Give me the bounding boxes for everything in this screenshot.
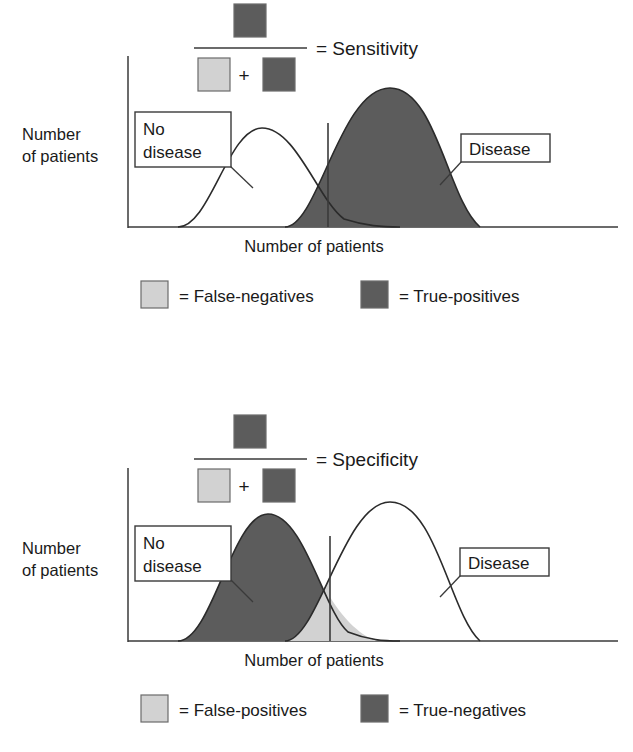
y-axis-label: Number of patients bbox=[22, 125, 98, 165]
legend-specificity: = False-positives = True-negatives bbox=[141, 695, 526, 722]
no-disease-label-line2: disease bbox=[143, 143, 202, 162]
formula-plus-operator: + bbox=[238, 65, 249, 86]
legend-label-false-positives: = False-positives bbox=[179, 701, 307, 720]
panel-specificity: + = Specificity Number of patients No bbox=[0, 376, 633, 752]
no-disease-label-line2: disease bbox=[143, 557, 202, 576]
formula-plus-operator: + bbox=[238, 476, 249, 497]
specificity-figure: + = Specificity Number of patients No bbox=[0, 376, 633, 752]
formula-denominator-dark-square bbox=[263, 58, 295, 91]
formula-numerator-dark-square bbox=[234, 4, 266, 37]
formula-result-label: = Specificity bbox=[316, 449, 418, 470]
no-disease-label-line1: No bbox=[143, 120, 165, 139]
legend-sensitivity: = False-negatives = True-positives bbox=[141, 281, 519, 308]
formula-numerator-dark-square bbox=[234, 415, 266, 448]
formula-denominator-light-square bbox=[198, 58, 230, 91]
legend-label-true-negatives: = True-negatives bbox=[399, 701, 526, 720]
callout-disease: Disease bbox=[440, 134, 550, 185]
legend-swatch-true-negatives bbox=[361, 695, 388, 722]
disease-label: Disease bbox=[468, 554, 529, 573]
y-axis-label-line1: Number bbox=[22, 539, 81, 557]
y-axis-label: Number of patients bbox=[22, 539, 98, 579]
disease-label: Disease bbox=[469, 140, 530, 159]
callout-disease: Disease bbox=[440, 548, 549, 597]
sensitivity-formula: + = Sensitivity bbox=[194, 4, 418, 91]
y-axis-label-line2: of patients bbox=[22, 561, 98, 579]
legend-swatch-false-negatives bbox=[141, 281, 168, 308]
legend-label-true-positives: = True-positives bbox=[399, 287, 519, 306]
panel-sensitivity: + = Sensitivity Number of patients No bbox=[0, 0, 633, 376]
disease-leader-line bbox=[440, 575, 461, 597]
legend-swatch-false-positives bbox=[141, 695, 168, 722]
x-axis-label: Number of patients bbox=[244, 651, 383, 669]
formula-result-label: = Sensitivity bbox=[316, 38, 418, 59]
legend-swatch-true-positives bbox=[361, 281, 388, 308]
formula-denominator-light-square bbox=[198, 469, 230, 502]
true-positives-region bbox=[285, 88, 480, 227]
sensitivity-figure: + = Sensitivity Number of patients No bbox=[0, 0, 633, 376]
x-axis-label: Number of patients bbox=[244, 237, 383, 255]
specificity-formula: + = Specificity bbox=[194, 415, 418, 502]
formula-denominator-dark-square bbox=[263, 469, 295, 502]
y-axis-label-line1: Number bbox=[22, 125, 81, 143]
legend-label-false-negatives: = False-negatives bbox=[179, 287, 314, 306]
no-disease-label-line1: No bbox=[143, 534, 165, 553]
no-disease-leader-line bbox=[230, 166, 253, 188]
y-axis-label-line2: of patients bbox=[22, 147, 98, 165]
